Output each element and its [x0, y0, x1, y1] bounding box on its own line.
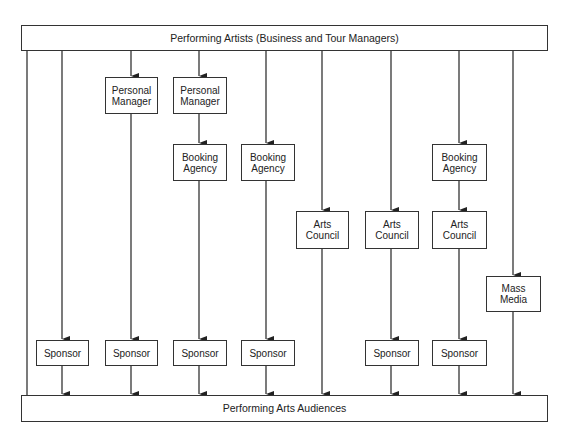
sponsor-label: Sponsor: [249, 348, 286, 359]
arts-council-box-3: Arts Council: [432, 211, 487, 249]
personal-manager-box-2: Personal Manager: [173, 77, 227, 114]
sponsor-box-6: Sponsor: [432, 340, 487, 366]
sponsor-label: Sponsor: [441, 348, 478, 359]
arts-council-box-2: Arts Council: [365, 211, 419, 249]
sponsor-label: Sponsor: [373, 348, 410, 359]
mass-media-label: Mass Media: [500, 283, 527, 305]
arts-council-box-1: Arts Council: [296, 211, 349, 249]
mass-media-box: Mass Media: [486, 276, 541, 312]
sponsor-box-4: Sponsor: [241, 340, 295, 366]
personal-manager-box-1: Personal Manager: [105, 77, 158, 114]
performing-artists-label: Performing Artists (Business and Tour Ma…: [170, 33, 399, 44]
sponsor-box-3: Sponsor: [173, 340, 227, 366]
sponsor-label: Sponsor: [181, 348, 218, 359]
booking-agency-box-1: Booking Agency: [173, 144, 227, 181]
booking-agency-label: Booking Agency: [250, 152, 286, 174]
sponsor-box-1: Sponsor: [36, 340, 89, 366]
sponsor-label: Sponsor: [113, 348, 150, 359]
sponsor-box-2: Sponsor: [105, 340, 158, 366]
distribution-channel-diagram: Performing Artists (Business and Tour Ma…: [0, 0, 568, 439]
performing-arts-audiences-box: Performing Arts Audiences: [21, 395, 548, 422]
booking-agency-label: Booking Agency: [441, 152, 477, 174]
booking-agency-label: Booking Agency: [182, 152, 218, 174]
sponsor-label: Sponsor: [44, 348, 81, 359]
performing-artists-box: Performing Artists (Business and Tour Ma…: [21, 25, 548, 51]
arts-council-label: Arts Council: [443, 219, 476, 241]
arts-council-label: Arts Council: [375, 219, 408, 241]
personal-manager-label: Personal Manager: [112, 85, 151, 107]
booking-agency-box-3: Booking Agency: [432, 144, 487, 181]
personal-manager-label: Personal Manager: [180, 85, 219, 107]
booking-agency-box-2: Booking Agency: [241, 144, 295, 181]
performing-arts-audiences-label: Performing Arts Audiences: [223, 403, 347, 414]
arts-council-label: Arts Council: [306, 219, 339, 241]
sponsor-box-5: Sponsor: [365, 340, 419, 366]
